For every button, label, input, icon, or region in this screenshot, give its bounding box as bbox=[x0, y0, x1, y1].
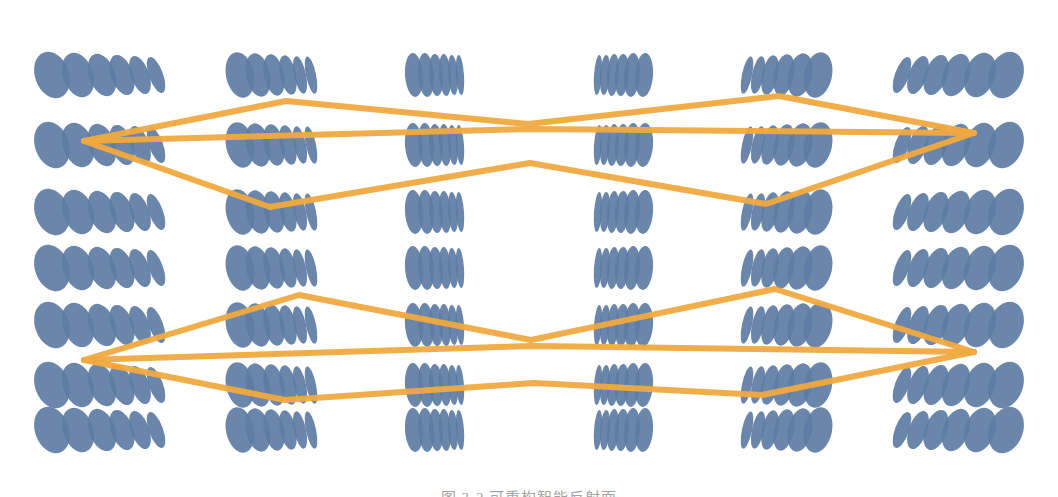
cropped-figure-caption: 图 3-2 可重构智能反射面 bbox=[0, 486, 1058, 497]
ris-array-diagram bbox=[0, 0, 1058, 497]
figure-page: 有变频的 IRS 与下行波束成 图 3-2 可重构智能反射面 bbox=[0, 0, 1058, 497]
